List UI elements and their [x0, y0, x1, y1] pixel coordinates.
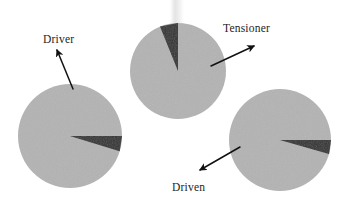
driver-arrow [57, 50, 73, 89]
pulley-belt-diagram: Driver Tensioner Driven [0, 0, 347, 212]
tensioner-label: Tensioner [223, 23, 270, 35]
driven-pulley [229, 89, 331, 191]
driver-label: Driver [43, 34, 74, 46]
tensioner-pulley [130, 23, 226, 119]
driven-label: Driven [172, 182, 205, 194]
driver-pulley [18, 84, 122, 188]
